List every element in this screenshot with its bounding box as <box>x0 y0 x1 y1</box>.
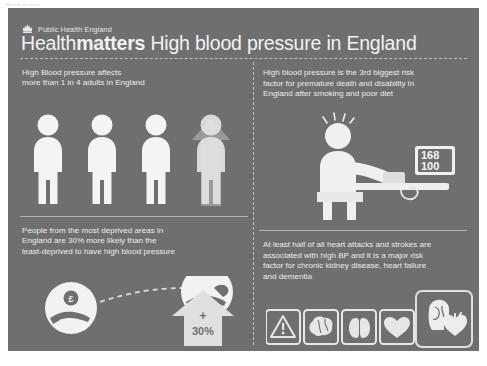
right-column-divider <box>259 230 467 231</box>
panel-risk-factor: High blood pressure is the 3rd biggest r… <box>263 68 473 226</box>
four-person-figures-illustration <box>26 110 244 206</box>
hand-with-coin-icon: £ <box>45 282 97 334</box>
seated-patient-illustration: 168 100 <box>297 110 473 220</box>
complications-line-4: and dementia <box>263 272 473 283</box>
left-column-divider <box>20 216 248 217</box>
risk-line-3: England after smoking and poor diet <box>263 89 473 100</box>
bp-monitor: 168 100 <box>415 146 455 175</box>
risk-line-2: factor for premature death and disabilit… <box>263 79 473 90</box>
patient-head <box>325 123 351 149</box>
screenshot-root: Health matters Public Health England Hea… <box>0 0 487 366</box>
title-subject: High blood pressure in England <box>145 32 416 54</box>
arrow-percent-value: 30% <box>192 325 214 337</box>
complications-line-2: associated with high BP and it is a majo… <box>263 251 473 262</box>
complications-text: At least half of all heart attacks and s… <box>263 240 473 282</box>
prevalence-line-1: High Blood pressure affects <box>22 68 248 78</box>
page-title: Healthmatters High blood pressure in Eng… <box>21 32 417 55</box>
panel-complications: At least half of all heart attacks and s… <box>263 240 473 348</box>
prevalence-text: High Blood pressure affects more than 1 … <box>22 68 248 89</box>
header-divider <box>20 58 467 59</box>
prevalence-line-2: more than 1 in 4 adults in England <box>22 78 248 88</box>
brain-icon <box>304 310 338 344</box>
heart-icon <box>380 310 414 344</box>
deprivation-line-3: least-deprived to have high blood pressu… <box>22 247 248 257</box>
title-matters: matters <box>76 32 145 54</box>
heart-shape-icon <box>443 313 467 336</box>
panel-deprivation: People from the most deprived areas in E… <box>22 226 248 346</box>
complications-line-1: At least half of all heart attacks and s… <box>263 240 473 251</box>
complications-line-3: factor for chronic kidney disease, heart… <box>263 261 473 272</box>
warning-triangle-icon <box>266 310 300 344</box>
panel-prevalence: High Blood pressure affects more than 1 … <box>22 68 248 213</box>
deprivation-illustration: £ + <box>24 276 248 346</box>
head-brain-heart-panel <box>415 290 473 351</box>
poster-header: Public Health England Healthmatters High… <box>8 8 479 55</box>
monitor-diastolic: 100 <box>421 160 439 172</box>
arrow-plus-sign: + <box>199 309 206 323</box>
risk-line-1: High blood pressure is the 3rd biggest r… <box>263 68 473 79</box>
dashed-connector <box>100 288 182 302</box>
deprivation-line-1: People from the most deprived areas in <box>22 226 248 236</box>
deprivation-text: People from the most deprived areas in E… <box>22 226 248 257</box>
infographic-poster: Public Health England Healthmatters High… <box>8 8 479 351</box>
top-strip-text: Health matters <box>6 2 40 7</box>
kidneys-icon <box>342 310 376 344</box>
deprivation-line-2: England are 30% more likely than the <box>22 236 248 246</box>
vertical-divider <box>253 62 254 345</box>
coin-pound-symbol: £ <box>68 294 73 304</box>
stress-lines-icon <box>323 113 354 123</box>
risk-factor-text: High blood pressure is the 3rd biggest r… <box>263 68 473 100</box>
title-health: Health <box>21 32 76 54</box>
arm-rest <box>353 183 449 190</box>
